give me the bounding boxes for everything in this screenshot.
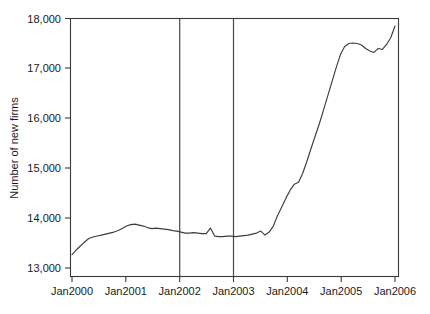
x-axis-tick-labels: Jan2000 Jan2001 Jan2002 Jan2003 Jan2004 … — [51, 285, 416, 297]
y-axis-ticks — [65, 19, 71, 269]
x-tick-label-jan2004: Jan2004 — [266, 285, 308, 297]
plot-frame — [71, 19, 399, 277]
y-tick-label-14000: 14,000 — [27, 212, 61, 224]
chart-figure: 13,000 14,000 15,000 16,000 17,000 18,00… — [0, 0, 430, 314]
y-tick-label-13000: 13,000 — [27, 262, 61, 274]
y-tick-label-17000: 17,000 — [27, 62, 61, 74]
y-tick-label-16000: 16,000 — [27, 112, 61, 124]
y-tick-label-15000: 15,000 — [27, 162, 61, 174]
x-tick-label-jan2003: Jan2003 — [212, 285, 254, 297]
x-tick-label-jan2001: Jan2001 — [105, 285, 147, 297]
x-tick-label-jan2005: Jan2005 — [320, 285, 362, 297]
x-tick-label-jan2000: Jan2000 — [51, 285, 93, 297]
y-tick-label-18000: 18,000 — [27, 13, 61, 25]
x-tick-label-jan2006: Jan2006 — [374, 285, 416, 297]
y-axis-title: Number of new firms — [8, 97, 20, 199]
y-axis-tick-labels: 13,000 14,000 15,000 16,000 17,000 18,00… — [27, 13, 61, 274]
line-chart-svg: 13,000 14,000 15,000 16,000 17,000 18,00… — [0, 0, 430, 314]
x-tick-label-jan2002: Jan2002 — [159, 285, 201, 297]
reference-lines — [180, 19, 234, 277]
x-axis-ticks — [72, 277, 395, 283]
